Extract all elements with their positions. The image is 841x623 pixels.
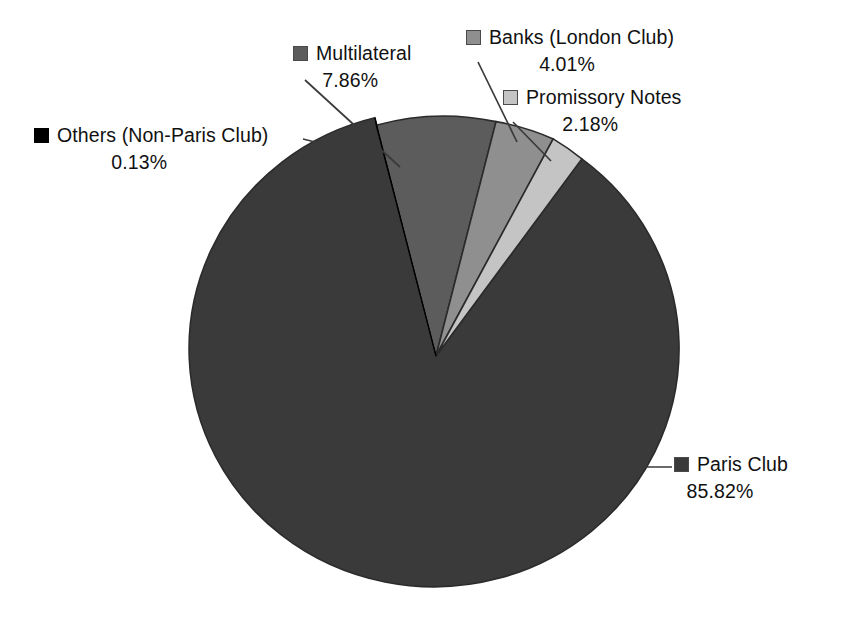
- callout-multilateral-label: Multilateral: [316, 44, 411, 64]
- callout-multilateral: Multilateral 7.86%: [293, 44, 411, 92]
- pie-slices: [189, 116, 679, 587]
- callout-banks-london-club: Banks (London Club) 4.01%: [466, 28, 674, 76]
- callout-others-row: Others (Non-Paris Club): [34, 126, 268, 146]
- callout-paris-label: Paris Club: [697, 455, 788, 475]
- callout-promissory-notes: Promissory Notes 2.18%: [503, 88, 681, 136]
- callout-promissory-row: Promissory Notes: [503, 88, 681, 108]
- callout-others-label: Others (Non-Paris Club): [57, 126, 268, 146]
- callout-others-non-paris-club: Others (Non-Paris Club) 0.13%: [34, 126, 268, 174]
- callout-banks-label: Banks (London Club): [489, 28, 674, 48]
- legend-swatch-multilateral-icon: [293, 46, 308, 61]
- legend-swatch-paris-club-icon: [674, 457, 689, 472]
- callout-paris-club: Paris Club 85.82%: [674, 455, 788, 503]
- legend-swatch-promissory-notes-icon: [503, 90, 518, 105]
- callout-others-percent: 0.13%: [34, 151, 268, 174]
- callout-banks-percent: 4.01%: [466, 53, 674, 76]
- pie-chart-graphic: [0, 0, 841, 623]
- legend-swatch-banks-icon: [466, 30, 481, 45]
- callout-multilateral-percent: 7.86%: [293, 69, 411, 92]
- callout-banks-row: Banks (London Club): [466, 28, 674, 48]
- pie-chart-page: Others (Non-Paris Club) 0.13% Multilater…: [0, 0, 841, 623]
- legend-swatch-others-icon: [34, 128, 49, 143]
- callout-promissory-label: Promissory Notes: [526, 88, 681, 108]
- callout-paris-row: Paris Club: [674, 455, 788, 475]
- callout-paris-percent: 85.82%: [674, 480, 788, 503]
- callout-multilateral-row: Multilateral: [293, 44, 411, 64]
- callout-promissory-percent: 2.18%: [503, 113, 681, 136]
